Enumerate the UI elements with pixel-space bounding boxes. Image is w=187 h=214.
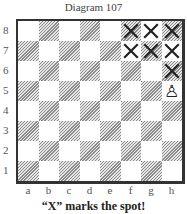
square-g2 — [141, 141, 162, 161]
square-a8 — [18, 21, 39, 41]
x-mark-icon — [162, 41, 183, 61]
square-h4 — [162, 101, 183, 121]
square-b6 — [39, 61, 60, 81]
square-e8 — [100, 21, 121, 41]
x-mark-icon — [162, 21, 183, 41]
square-d7 — [80, 41, 101, 61]
file-label-f: f — [121, 184, 141, 196]
square-f4 — [121, 101, 142, 121]
square-f8 — [121, 21, 142, 41]
square-e2 — [100, 141, 121, 161]
square-a3 — [18, 121, 39, 141]
square-e1 — [100, 161, 121, 181]
square-a4 — [18, 101, 39, 121]
square-h1 — [162, 161, 183, 181]
square-f6 — [121, 61, 142, 81]
square-d8 — [80, 21, 101, 41]
square-e4 — [100, 101, 121, 121]
x-mark-icon — [141, 21, 162, 41]
x-mark-icon — [121, 41, 142, 61]
square-a6 — [18, 61, 39, 81]
square-f5 — [121, 81, 142, 101]
square-f7 — [121, 41, 142, 61]
rank-label-2: 2 — [3, 144, 13, 156]
square-e7 — [100, 41, 121, 61]
square-b7 — [39, 41, 60, 61]
square-e6 — [100, 61, 121, 81]
square-a2 — [18, 141, 39, 161]
square-h2 — [162, 141, 183, 161]
square-g5 — [141, 81, 162, 101]
square-h8 — [162, 21, 183, 41]
square-b1 — [39, 161, 60, 181]
square-d2 — [80, 141, 101, 161]
square-f1 — [121, 161, 142, 181]
square-g3 — [141, 121, 162, 141]
square-c5 — [59, 81, 80, 101]
diagram-title: Diagram 107 — [0, 1, 187, 13]
square-c3 — [59, 121, 80, 141]
square-c4 — [59, 101, 80, 121]
square-b8 — [39, 21, 60, 41]
square-h6 — [162, 61, 183, 81]
rank-label-5: 5 — [3, 84, 13, 96]
file-label-g: g — [141, 184, 161, 196]
square-g7 — [141, 41, 162, 61]
square-f3 — [121, 121, 142, 141]
rank-label-8: 8 — [3, 24, 13, 36]
square-c2 — [59, 141, 80, 161]
square-b5 — [39, 81, 60, 101]
file-label-h: h — [162, 184, 182, 196]
square-d4 — [80, 101, 101, 121]
file-label-c: c — [59, 184, 79, 196]
file-label-e: e — [100, 184, 120, 196]
square-h3 — [162, 121, 183, 141]
x-mark-icon — [162, 61, 183, 81]
square-c7 — [59, 41, 80, 61]
square-d1 — [80, 161, 101, 181]
square-d5 — [80, 81, 101, 101]
square-c8 — [59, 21, 80, 41]
square-a5 — [18, 81, 39, 101]
white-pawn-icon: ♙ — [162, 81, 183, 101]
rank-label-3: 3 — [3, 124, 13, 136]
rank-label-1: 1 — [3, 164, 13, 176]
rank-label-7: 7 — [3, 44, 13, 56]
square-e5 — [100, 81, 121, 101]
file-label-d: d — [80, 184, 100, 196]
rank-label-4: 4 — [3, 104, 13, 116]
square-d3 — [80, 121, 101, 141]
square-h5: ♙ — [162, 81, 183, 101]
square-a7 — [18, 41, 39, 61]
square-g1 — [141, 161, 162, 181]
chess-board: ♙ — [16, 19, 185, 184]
diagram-caption: “X” marks the spot! — [0, 199, 187, 214]
x-mark-icon — [141, 41, 162, 61]
square-c1 — [59, 161, 80, 181]
square-d6 — [80, 61, 101, 81]
square-a1 — [18, 161, 39, 181]
file-label-a: a — [18, 184, 38, 196]
x-mark-icon — [121, 21, 142, 41]
square-b4 — [39, 101, 60, 121]
square-f2 — [121, 141, 142, 161]
square-c6 — [59, 61, 80, 81]
square-h7 — [162, 41, 183, 61]
square-b2 — [39, 141, 60, 161]
square-e3 — [100, 121, 121, 141]
rank-label-6: 6 — [3, 64, 13, 76]
file-label-b: b — [39, 184, 59, 196]
square-b3 — [39, 121, 60, 141]
square-g4 — [141, 101, 162, 121]
square-g6 — [141, 61, 162, 81]
square-g8 — [141, 21, 162, 41]
